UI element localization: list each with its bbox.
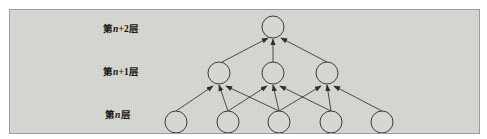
node-layer-n-plus-1-0 bbox=[208, 62, 230, 84]
edge-b0-m0 bbox=[176, 86, 213, 111]
layer-label-n-plus-1-suffix: +1层 bbox=[119, 67, 139, 77]
edge-m0-t0 bbox=[222, 38, 268, 62]
diagram-panel bbox=[9, 9, 480, 134]
layer-label-n-plus-1: 第n+1层 bbox=[103, 64, 139, 78]
layer-label-n-plus-2-prefix: 第 bbox=[103, 24, 113, 34]
node-layer-n-3 bbox=[320, 111, 342, 133]
layer-label-n-plus-1-prefix: 第 bbox=[103, 67, 113, 77]
layer-label-n-suffix: 层 bbox=[121, 110, 131, 120]
edge-b1-m0 bbox=[219, 85, 228, 111]
layer-label-n: 第n层 bbox=[105, 107, 131, 121]
layer-label-n-plus-2: 第n+2层 bbox=[103, 21, 139, 35]
layer-label-n-prefix: 第 bbox=[105, 110, 115, 120]
node-layer-n-plus-1-2 bbox=[316, 62, 338, 84]
node-layer-n-4 bbox=[371, 111, 393, 133]
figure-root: 第n+2层 第n+1层 第n层 bbox=[0, 0, 487, 139]
edge-b2-m1 bbox=[273, 85, 279, 111]
node-layer-n-2 bbox=[268, 111, 290, 133]
edge-m2-t0 bbox=[281, 38, 327, 62]
edge-b3-m1 bbox=[280, 86, 331, 111]
edge-b3-m2 bbox=[327, 85, 331, 111]
node-layer-n-plus-1-1 bbox=[262, 62, 284, 84]
nodes-group bbox=[165, 16, 393, 133]
node-layer-n-1 bbox=[217, 111, 239, 133]
layer-label-n-plus-2-suffix: +2层 bbox=[119, 24, 139, 34]
network-diagram bbox=[10, 10, 480, 134]
node-layer-n-0 bbox=[165, 111, 187, 133]
edge-b2-m2 bbox=[279, 86, 321, 111]
edge-b4-m2 bbox=[334, 86, 382, 111]
node-layer-n-plus-2-0 bbox=[262, 16, 284, 38]
